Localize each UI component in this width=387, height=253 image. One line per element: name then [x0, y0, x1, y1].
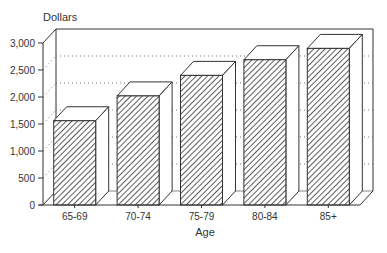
bars	[54, 34, 363, 205]
bar	[54, 107, 109, 205]
bar	[181, 61, 236, 205]
y-axis-label: Dollars	[43, 11, 78, 23]
bar	[307, 34, 362, 205]
bar	[117, 82, 172, 205]
x-axis-label: Age	[195, 226, 215, 238]
x-tick-label: 75-79	[189, 211, 215, 222]
y-tick-label: 1,500	[10, 119, 35, 130]
bar-chart: 05001,0001,5002,0002,5003,00065-6970-747…	[0, 0, 387, 253]
y-tick-label: 1,000	[10, 146, 35, 157]
x-tick-label: 65-69	[62, 211, 88, 222]
bar	[244, 46, 299, 205]
x-tick-label: 85+	[320, 211, 337, 222]
x-tick-label: 80-84	[252, 211, 278, 222]
y-tick-label: 2,000	[10, 92, 35, 103]
y-tick-label: 500	[18, 173, 35, 184]
y-tick-label: 0	[29, 200, 35, 211]
y-tick-label: 2,500	[10, 65, 35, 76]
x-tick-label: 70-74	[125, 211, 151, 222]
y-tick-label: 3,000	[10, 38, 35, 49]
